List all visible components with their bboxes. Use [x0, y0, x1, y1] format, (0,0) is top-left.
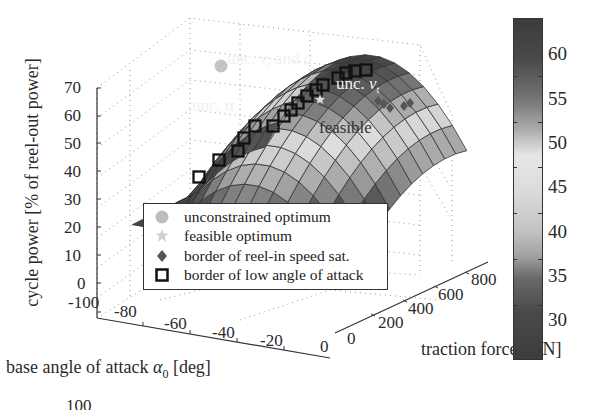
legend-label: unconstrained optimum — [184, 208, 331, 226]
annotation-feasible: feasible — [319, 118, 372, 138]
legend-label: border of reel-in speed sat. — [184, 247, 350, 265]
t-tick-200: 200 — [378, 313, 404, 333]
x-axis-label: base angle of attack α0 [deg] — [6, 357, 211, 382]
colorbar-tick-35: 35 — [548, 265, 567, 287]
annotation-unc-vt-alpha: unc. vt and α — [227, 49, 313, 70]
annotation-unc-alpha: unc. α — [192, 96, 234, 116]
annotation-unc-vt: unc. vt — [336, 74, 380, 95]
diamond-marker-icon — [155, 249, 169, 263]
legend: unconstrained optimum feasible optimum b… — [143, 203, 388, 290]
z-tick-40: 40 — [64, 162, 81, 182]
colorbar-tick-30: 30 — [548, 309, 567, 331]
x-tick-neg40: -40 — [212, 323, 235, 343]
legend-item-low-aoa: border of low angle of attack — [150, 266, 387, 286]
z-tick-10: 10 — [64, 246, 81, 266]
legend-label: border of low angle of attack — [184, 266, 363, 284]
circle-marker-icon — [155, 210, 169, 224]
x-tick-neg80: -80 — [114, 302, 137, 322]
colorbar-tick-45: 45 — [548, 176, 567, 198]
t-tick-400: 400 — [408, 299, 434, 319]
legend-item-unconstrained: unconstrained optimum — [150, 207, 387, 227]
t-tick-600: 600 — [438, 285, 464, 305]
t-tick-800: 800 — [471, 270, 497, 290]
z-tick-70: 70 — [64, 78, 81, 98]
colorbar — [513, 18, 543, 360]
x-tick-neg20: -20 — [260, 331, 283, 351]
t-tick-0: 0 — [347, 329, 356, 349]
legend-item-reel-in: border of reel-in speed sat. — [150, 246, 387, 266]
z-axis-label: cycle power [% of reel-out power] — [22, 33, 43, 333]
colorbar-tick-60: 60 — [548, 43, 567, 65]
x-tick-0: 0 — [320, 337, 329, 357]
colorbar-tick-55: 55 — [548, 88, 567, 110]
colorbar-tick-50: 50 — [548, 132, 567, 154]
legend-item-feasible: feasible optimum — [150, 227, 387, 247]
x-tick-neg60: -60 — [164, 314, 187, 334]
z-tick-0: 0 — [77, 274, 86, 294]
cutoff-text: 100 — [66, 396, 92, 410]
unconstrained-optimum-marker — [215, 60, 228, 73]
star-marker-icon — [155, 229, 169, 243]
colorbar-tick-40: 40 — [548, 221, 567, 243]
legend-label: feasible optimum — [184, 227, 292, 245]
square-marker-icon — [155, 268, 169, 282]
x-tick-neg100: -100 — [68, 293, 99, 313]
z-tick-20: 20 — [64, 218, 81, 238]
z-tick-60: 60 — [64, 106, 81, 126]
z-tick-30: 30 — [64, 190, 81, 210]
z-tick-50: 50 — [64, 134, 81, 154]
